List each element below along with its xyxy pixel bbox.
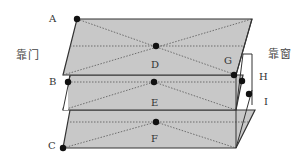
label-b: B (49, 77, 56, 87)
point-d (153, 43, 159, 49)
point-i (246, 91, 252, 97)
point-c (60, 145, 66, 151)
point-b (65, 79, 71, 85)
bottom-layer (63, 110, 255, 148)
door-side-label: 靠门 (16, 50, 40, 61)
label-h: H (259, 72, 268, 82)
point-e (151, 79, 157, 85)
point-h (239, 78, 245, 84)
point-a (74, 16, 80, 22)
label-c: C (48, 141, 56, 151)
label-d: D (151, 60, 159, 70)
label-g: G (224, 56, 232, 66)
label-f: F (151, 134, 158, 144)
label-i: I (264, 97, 268, 107)
label-a: A (49, 14, 56, 24)
point-f (153, 119, 159, 125)
label-e: E (151, 98, 158, 108)
point-g (231, 72, 237, 78)
window-side-label: 靠窗 (268, 49, 292, 60)
